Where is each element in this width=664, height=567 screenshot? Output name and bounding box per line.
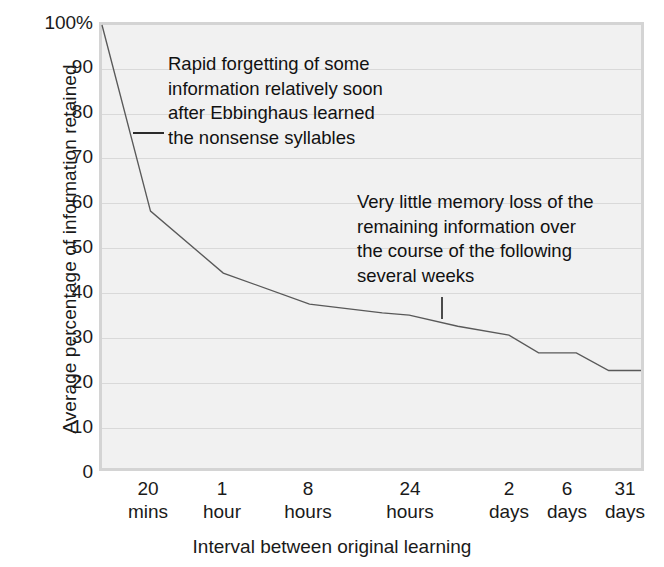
annotation-rapid-forgetting: Rapid forgetting of some information rel…: [168, 52, 458, 150]
x-tick-unit: days: [580, 500, 664, 523]
y-tick-label: 70: [0, 147, 93, 166]
forgetting-curve-figure: Average percentage of information retain…: [0, 0, 664, 567]
y-tick-label: 90: [0, 57, 93, 76]
x-tick-unit: hours: [365, 500, 455, 523]
annotation-1-leader-dash: [133, 132, 164, 134]
x-axis-tick-labels: 20 mins 1 hour 8 hours 24 hours 2 days 6…: [0, 477, 664, 537]
y-axis-tick-labels: 100% 90 80 70 60 50 40 30 20 10 0: [0, 0, 93, 490]
y-tick-label: 30: [0, 327, 93, 346]
x-tick-8-hours: 8 hours: [263, 477, 353, 523]
y-tick-label: 40: [0, 282, 93, 301]
x-tick-number: 31: [580, 477, 664, 500]
x-tick-number: 8: [263, 477, 353, 500]
annotation-little-memory-loss: Very little memory loss of the remaining…: [357, 190, 657, 288]
y-tick-label: 80: [0, 102, 93, 121]
x-tick-number: 24: [365, 477, 455, 500]
x-tick-number: 1: [177, 477, 267, 500]
x-axis-title: Interval between original learning: [0, 536, 664, 558]
x-tick-unit: hours: [263, 500, 353, 523]
x-tick-1-hour: 1 hour: [177, 477, 267, 523]
y-tick-label: 50: [0, 237, 93, 256]
x-tick-unit: hour: [177, 500, 267, 523]
x-tick-24-hours: 24 hours: [365, 477, 455, 523]
y-tick-label: 60: [0, 192, 93, 211]
y-tick-label: 100%: [0, 13, 93, 32]
y-tick-label: 10: [0, 417, 93, 436]
x-tick-31-days: 31 days: [580, 477, 664, 523]
y-tick-label: 20: [0, 372, 93, 391]
annotation-2-leader-tick: [441, 297, 443, 319]
